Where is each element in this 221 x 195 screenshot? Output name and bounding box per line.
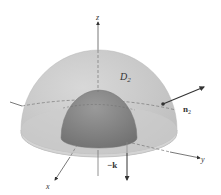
y-axis bbox=[170, 152, 200, 158]
y-axis-label: y bbox=[200, 155, 205, 164]
z-axis-label: z bbox=[95, 13, 100, 22]
normal-label: n2 bbox=[183, 104, 191, 115]
minus-k-label: −k bbox=[107, 160, 117, 170]
hemispheres-diagram: z x y D2 n2 −k bbox=[0, 0, 221, 195]
x-axis bbox=[55, 157, 70, 180]
x-axis-label: x bbox=[45, 182, 50, 191]
left-axis-stub bbox=[10, 102, 22, 106]
